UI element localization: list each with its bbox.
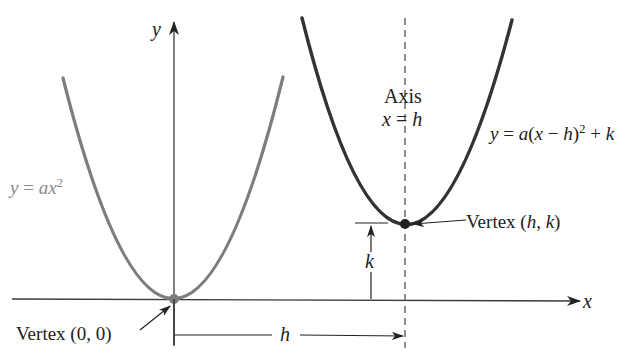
x-axis xyxy=(12,299,580,301)
vertical-shift-label: k xyxy=(365,250,375,272)
shifted-parabola-equation: y = a(x − h)2 + k xyxy=(488,121,615,145)
origin-vertex-label: Vertex (0, 0) xyxy=(16,323,112,345)
axis-of-symmetry-label-line1: Axis xyxy=(384,85,422,107)
x-axis-label: x xyxy=(582,290,592,312)
shifted-vertex-dot xyxy=(400,219,410,229)
base-parabola-curve xyxy=(63,77,283,299)
h-arrow-right xyxy=(300,335,403,336)
shifted-vertex-label: Vertex (h, k) xyxy=(466,211,560,233)
horizontal-shift-label: h xyxy=(280,323,290,345)
axis-of-symmetry-label-line2: x = h xyxy=(381,108,422,130)
parabola-diagram: y x Axis x = h y = a(x − h)2 + k y = ax2… xyxy=(0,0,643,354)
origin-vertex-pointer xyxy=(140,306,170,330)
y-axis-label: y xyxy=(150,18,161,41)
base-parabola-equation: y = ax2 xyxy=(8,175,63,198)
